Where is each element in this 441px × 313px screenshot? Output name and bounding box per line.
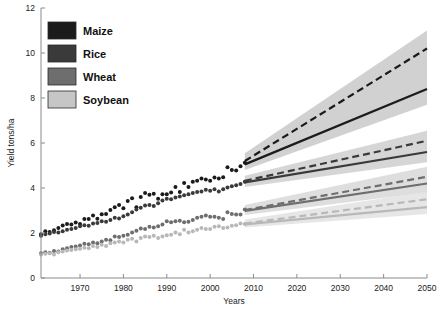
data-point [147, 225, 151, 229]
data-point [100, 243, 104, 247]
data-point [204, 177, 208, 181]
y-tick-label: 2 [30, 228, 35, 238]
data-point [182, 181, 186, 185]
data-point [95, 241, 99, 245]
data-point [217, 224, 221, 228]
data-point [121, 206, 125, 210]
data-point [173, 185, 177, 189]
data-point [48, 251, 52, 255]
data-point [173, 231, 177, 235]
data-point [113, 216, 117, 220]
data-point [126, 213, 130, 217]
data-point [230, 224, 234, 228]
data-point [95, 217, 99, 221]
x-tick-label: 2010 [244, 283, 263, 293]
data-point [165, 233, 169, 237]
data-point [204, 213, 208, 217]
data-point [212, 225, 216, 229]
data-point [191, 229, 195, 233]
data-point [239, 213, 243, 217]
data-point [152, 225, 156, 229]
data-point [48, 231, 52, 235]
data-point [130, 210, 134, 214]
data-point [156, 236, 160, 240]
data-point [191, 180, 195, 184]
data-point [147, 193, 151, 197]
data-point [82, 223, 86, 227]
data-point [204, 188, 208, 192]
y-tick-label: 12 [26, 3, 36, 13]
data-point [104, 212, 108, 216]
data-point [178, 190, 182, 194]
data-point [195, 216, 199, 220]
data-point [165, 219, 169, 223]
data-point [56, 226, 60, 230]
data-point [208, 227, 212, 231]
data-point [160, 234, 164, 238]
data-point [234, 223, 238, 227]
x-tick-label: 1980 [114, 283, 133, 293]
data-point [134, 229, 138, 233]
data-point [156, 201, 160, 205]
data-point [82, 217, 86, 221]
data-point [108, 208, 112, 212]
data-point [152, 192, 156, 196]
data-point [217, 216, 221, 220]
x-tick-label: 2050 [418, 283, 437, 293]
data-point [178, 232, 182, 236]
data-point [234, 213, 238, 217]
data-point [143, 234, 147, 238]
y-axis-title: Yield tons/ha [6, 118, 16, 167]
data-point [191, 218, 195, 222]
data-point [195, 179, 199, 183]
data-point [234, 183, 238, 187]
data-point [121, 234, 125, 238]
data-point [212, 215, 216, 219]
y-tick-label: 6 [30, 138, 35, 148]
data-point [104, 244, 108, 248]
data-point [95, 245, 99, 249]
data-point [186, 192, 190, 196]
data-point [147, 235, 151, 239]
data-point [191, 191, 195, 195]
data-point [156, 197, 160, 201]
data-point [139, 227, 143, 231]
data-point [100, 212, 104, 216]
data-point [199, 215, 203, 219]
legend-swatch-wheat [48, 68, 76, 85]
data-point [91, 222, 95, 226]
data-point [221, 226, 225, 230]
data-point [239, 164, 243, 168]
data-point [208, 215, 212, 219]
data-point [225, 225, 229, 229]
data-point [152, 234, 156, 238]
data-point [195, 228, 199, 232]
data-point [169, 191, 173, 195]
data-point [43, 252, 47, 256]
data-point [87, 246, 91, 250]
data-point [113, 234, 117, 238]
data-point [121, 214, 125, 218]
x-tick-label: 2000 [201, 283, 220, 293]
data-point [130, 196, 134, 200]
x-tick-label: 2020 [287, 283, 306, 293]
data-point [100, 219, 104, 223]
data-point [221, 175, 225, 179]
data-point [199, 189, 203, 193]
legend-label-wheat: Wheat [83, 71, 116, 83]
data-point [61, 249, 65, 253]
data-point [108, 218, 112, 222]
data-point [165, 197, 169, 201]
data-point [121, 240, 125, 244]
data-point [126, 199, 130, 203]
legend-label-maize: Maize [83, 25, 113, 37]
data-point [195, 190, 199, 194]
data-point [234, 168, 238, 172]
data-point [78, 247, 82, 251]
data-point [87, 217, 91, 221]
data-point [221, 217, 225, 221]
data-point [117, 216, 121, 220]
legend-swatch-maize [48, 22, 76, 39]
x-tick-label: 2040 [374, 283, 393, 293]
data-point [91, 240, 95, 244]
